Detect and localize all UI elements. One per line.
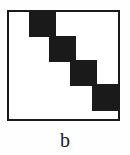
matrix-block-3 bbox=[70, 60, 97, 86]
matrix-block-4 bbox=[92, 84, 119, 111]
figure-panel: b bbox=[0, 0, 130, 155]
matrix-block-1 bbox=[29, 11, 56, 37]
matrix-block-2 bbox=[49, 36, 76, 62]
matrix-outline bbox=[7, 10, 120, 121]
figure-caption-label: b bbox=[0, 130, 130, 150]
